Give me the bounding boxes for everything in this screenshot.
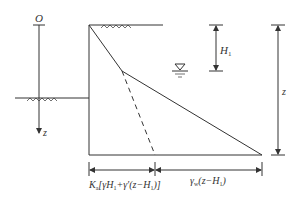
top-ground-surface: [89, 25, 163, 28]
soil-pressure-dashed-line: [122, 71, 155, 155]
depth-axis: [33, 25, 45, 133]
water-table-icon: [172, 64, 188, 77]
earth-pressure-diagram: O z H1 z: [0, 0, 300, 203]
water-pressure-label: γw(z−H1): [190, 175, 227, 187]
soil-pressure-label: Ka[γH1+γ′(z−H1)]: [88, 179, 161, 191]
pressure-width-dimension: [89, 162, 262, 176]
total-pressure-line: [89, 25, 262, 155]
left-ground-surface: [15, 98, 89, 101]
total-depth-label: z: [281, 86, 286, 97]
origin-label: O: [35, 12, 43, 24]
pressure-diagram: [89, 25, 262, 155]
water-depth-label: H1: [219, 44, 232, 58]
depth-axis-label: z: [42, 127, 47, 138]
